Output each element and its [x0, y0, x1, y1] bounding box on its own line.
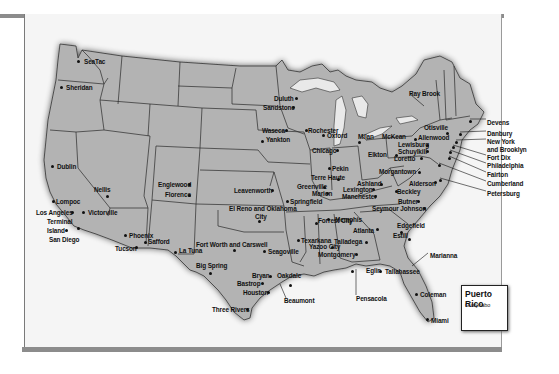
- location-label: Elkton: [368, 151, 387, 158]
- location-label: Marianna: [430, 252, 457, 259]
- location-label: Three Rivers: [212, 306, 250, 313]
- location-label: Dublin: [57, 163, 76, 170]
- location-label: Terminal: [47, 218, 72, 225]
- location-label: La Tuna: [179, 247, 202, 254]
- location-dot-icon: [351, 270, 354, 273]
- location-dot-icon: [261, 282, 264, 285]
- location-label: Alderson: [409, 180, 436, 187]
- location-label: Schuylkill: [398, 148, 427, 155]
- location-dot-icon: [380, 183, 383, 186]
- puerto-rico-inset: Puerto Rico Guaynabo: [461, 285, 508, 331]
- location-dot-icon: [285, 129, 288, 132]
- location-dot-icon: [52, 200, 55, 203]
- location-dot-icon: [426, 150, 429, 153]
- location-dot-icon: [271, 189, 274, 192]
- location-label: Yankton: [266, 136, 290, 143]
- location-dot-icon: [426, 318, 429, 321]
- location-label: Tucson: [115, 245, 137, 252]
- location-label: Bastrop: [237, 280, 260, 287]
- location-label: Cumberland: [487, 180, 523, 187]
- location-dot-icon: [269, 275, 272, 278]
- location-label: Englewood: [158, 181, 191, 188]
- location-dot-icon: [449, 151, 452, 154]
- location-dot-icon: [286, 200, 289, 203]
- location-label: Memphis: [335, 216, 362, 223]
- location-dot-icon: [326, 192, 329, 195]
- location-label: New York: [487, 138, 515, 145]
- location-label: Safford: [148, 238, 170, 245]
- location-dot-icon: [82, 211, 85, 214]
- location-label: El Reno and Oklahoma: [229, 205, 297, 212]
- location-label: Talladega: [334, 238, 362, 245]
- location-label: Edgefield: [397, 222, 425, 229]
- location-label: Oxford: [327, 132, 347, 139]
- location-label: Philadelphia: [487, 162, 523, 169]
- location-label: Sandstone: [263, 104, 295, 111]
- location-label: Fort Dix: [487, 154, 510, 161]
- location-dot-icon: [459, 133, 462, 136]
- location-label: Island: [47, 227, 65, 234]
- location-dot-icon: [355, 253, 358, 256]
- location-label: Duluth: [274, 95, 294, 102]
- location-dot-icon: [51, 165, 54, 168]
- location-dot-icon: [395, 190, 398, 193]
- location-dot-icon: [372, 188, 375, 191]
- location-dot-icon: [77, 60, 80, 63]
- location-dot-icon: [188, 183, 191, 186]
- location-dot-icon: [305, 129, 308, 132]
- location-dot-icon: [263, 250, 266, 253]
- location-label: Waseca: [262, 127, 285, 134]
- location-dot-icon: [331, 246, 334, 249]
- location-label: Marion: [312, 190, 332, 197]
- location-label: Nellis: [94, 186, 110, 193]
- location-label: Atlanta: [353, 227, 374, 234]
- location-dot-icon: [420, 157, 423, 160]
- location-dot-icon: [323, 186, 326, 189]
- location-label: Bryan: [252, 272, 270, 279]
- location-label: McKean: [382, 133, 406, 140]
- location-label: Morgantown: [379, 168, 416, 175]
- location-label: and Brooklyn: [487, 146, 527, 153]
- location-dot-icon: [144, 241, 147, 244]
- location-dot-icon: [455, 141, 458, 144]
- location-label: Tallahassee: [385, 268, 420, 275]
- location-dot-icon: [289, 284, 292, 287]
- location-label: Lompoc: [56, 198, 80, 205]
- location-dot-icon: [328, 167, 331, 170]
- location-dot-icon: [379, 270, 382, 273]
- location-dot-icon: [174, 251, 177, 254]
- location-dot-icon: [297, 239, 300, 242]
- location-dot-icon: [106, 195, 109, 198]
- location-dot-icon: [188, 194, 191, 197]
- location-label: Seagoville: [268, 248, 299, 255]
- location-dot-icon: [327, 218, 330, 221]
- location-label: Miami: [431, 317, 449, 324]
- location-dot-icon: [258, 220, 261, 223]
- location-dot-icon: [452, 146, 455, 149]
- location-label: Danbury: [487, 130, 512, 137]
- location-label: Ray Brook: [409, 90, 440, 97]
- location-label: Houston: [243, 289, 268, 296]
- location-label: Coleman: [420, 291, 446, 298]
- location-dot-icon: [261, 140, 264, 143]
- location-dot-icon: [415, 293, 418, 296]
- location-dot-icon: [376, 228, 379, 231]
- location-label: Butner: [398, 198, 418, 205]
- location-label: SeaTac: [84, 58, 105, 65]
- location-dot-icon: [439, 179, 442, 182]
- location-label: Chicago: [312, 147, 337, 154]
- location-dot-icon: [77, 227, 80, 230]
- location-dot-icon: [423, 207, 426, 210]
- location-dot-icon: [365, 241, 368, 244]
- location-label: Devens: [487, 119, 509, 126]
- location-dot-icon: [336, 149, 339, 152]
- location-dot-icon: [60, 86, 63, 89]
- location-label: Pekin: [332, 165, 349, 172]
- location-dot-icon: [448, 157, 451, 160]
- location-label: Los Angeles: [36, 209, 73, 216]
- location-dot-icon: [315, 222, 318, 225]
- location-dot-icon: [358, 141, 361, 144]
- location-dot-icon: [417, 200, 420, 203]
- location-dot-icon: [246, 308, 249, 311]
- location-label: Lexington: [343, 186, 373, 193]
